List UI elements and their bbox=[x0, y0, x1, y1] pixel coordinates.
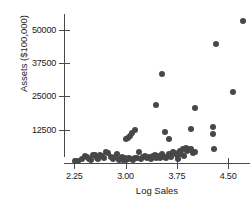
scatter-point bbox=[192, 105, 198, 111]
scatter-point bbox=[230, 89, 236, 95]
scatter-plot-figure: 12500250003750050000 Assets ($100,000) 2… bbox=[0, 0, 252, 203]
scatter-point bbox=[101, 155, 107, 161]
scatter-point bbox=[188, 126, 194, 132]
scatter-point bbox=[211, 146, 217, 152]
scatter-point bbox=[181, 153, 187, 159]
scatter-point bbox=[153, 102, 159, 108]
scatter-point bbox=[132, 127, 138, 133]
scatter-point bbox=[240, 18, 246, 24]
plot-area bbox=[0, 0, 252, 203]
scatter-point bbox=[210, 131, 216, 137]
scatter-point bbox=[192, 149, 198, 155]
scatter-point bbox=[175, 156, 181, 162]
scatter-point bbox=[210, 124, 216, 130]
scatter-point bbox=[213, 41, 219, 47]
scatter-point bbox=[166, 136, 172, 142]
scatter-point bbox=[159, 71, 165, 77]
scatter-point bbox=[162, 129, 168, 135]
